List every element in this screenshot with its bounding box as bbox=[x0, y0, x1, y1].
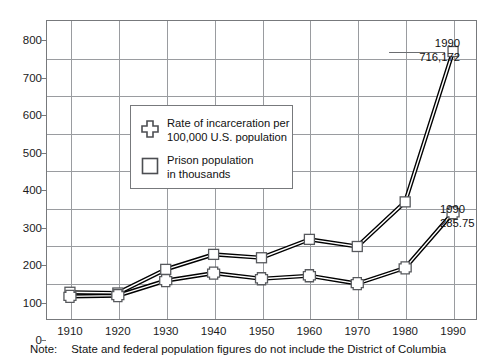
legend-label-population: Prison population in thousands bbox=[167, 154, 253, 181]
data-point-square bbox=[400, 197, 410, 207]
x-tick-label: 1980 bbox=[392, 325, 418, 337]
data-point-cross bbox=[208, 267, 220, 279]
x-tick-label: 1940 bbox=[201, 325, 227, 337]
x-tick-label: 1960 bbox=[297, 325, 323, 337]
data-point-cross bbox=[303, 270, 315, 282]
y-tick-label: 800 bbox=[2, 34, 42, 46]
data-point-square bbox=[304, 234, 314, 244]
data-point-square bbox=[209, 249, 219, 259]
cross-marker-icon bbox=[140, 119, 160, 139]
chart-figure: 0100200300400500600700800 Rate of incarc… bbox=[0, 0, 503, 362]
y-tick-label: 300 bbox=[2, 222, 42, 234]
legend-item-rate: Rate of incarceration per 100,000 U.S. p… bbox=[140, 117, 290, 144]
annotation-cross-year: 1990 bbox=[440, 202, 500, 216]
figure-note: Note:State and federal population figure… bbox=[30, 343, 446, 355]
square-marker-icon bbox=[140, 156, 160, 176]
y-tick-label: 500 bbox=[2, 147, 42, 159]
annotation-cross-value: 285.75 bbox=[440, 216, 500, 230]
legend-item-population: Prison population in thousands bbox=[140, 154, 253, 181]
x-axis: 191019201930194019501960197019801990 bbox=[46, 325, 477, 341]
data-point-square bbox=[352, 242, 362, 252]
y-tick-label: 100 bbox=[2, 297, 42, 309]
data-point-cross bbox=[351, 278, 363, 290]
data-point-square bbox=[257, 253, 267, 263]
data-point-cross bbox=[64, 290, 76, 302]
x-tick-label: 1910 bbox=[57, 325, 83, 337]
x-tick-label: 1920 bbox=[105, 325, 131, 337]
note-text: State and federal population figures do … bbox=[71, 343, 446, 355]
legend-label-rate: Rate of incarceration per 100,000 U.S. p… bbox=[167, 117, 290, 144]
y-tick-label: 200 bbox=[2, 259, 42, 271]
y-axis: 0100200300400500600700800 bbox=[0, 20, 42, 320]
annotation-square-1990: 1990 716,172 bbox=[372, 36, 460, 64]
data-point-cross bbox=[112, 290, 124, 302]
y-tick-label: 400 bbox=[2, 184, 42, 196]
annotation-cross-1990: 1990 285.75 bbox=[440, 202, 500, 230]
annotation-square-value: 716,172 bbox=[372, 50, 460, 64]
y-tick-label: 700 bbox=[2, 72, 42, 84]
x-tick-label: 1970 bbox=[344, 325, 370, 337]
legend: Rate of incarceration per 100,000 U.S. p… bbox=[130, 105, 293, 189]
x-tick-label: 1990 bbox=[440, 325, 466, 337]
data-point-cross bbox=[160, 275, 172, 287]
data-point-cross bbox=[256, 273, 268, 285]
data-point-square bbox=[161, 264, 171, 274]
x-tick-label: 1950 bbox=[249, 325, 275, 337]
annotation-square-year: 1990 bbox=[372, 36, 460, 50]
note-label: Note: bbox=[30, 343, 57, 355]
x-tick-label: 1930 bbox=[153, 325, 179, 337]
y-tick-label: 600 bbox=[2, 109, 42, 121]
data-point-cross bbox=[399, 262, 411, 274]
